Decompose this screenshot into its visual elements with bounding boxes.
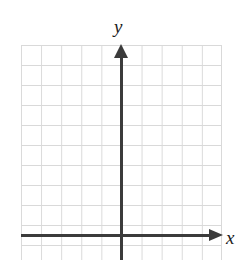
x-axis-arrow-icon — [209, 229, 223, 241]
x-axis-line — [21, 234, 217, 237]
x-axis-label: x — [226, 228, 234, 247]
coordinate-plane-figure: y x — [0, 0, 244, 260]
y-axis-arrow-icon — [114, 44, 128, 58]
grid-right-edge — [221, 45, 222, 260]
y-axis-label: y — [114, 17, 122, 36]
y-axis-line — [120, 54, 123, 260]
